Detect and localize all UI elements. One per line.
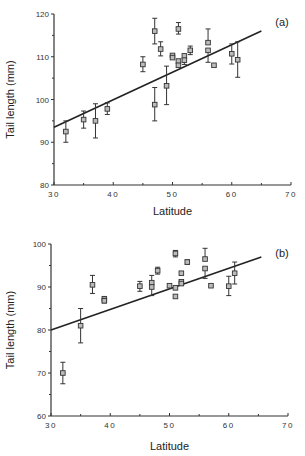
y-tick-label: 80 (37, 326, 46, 335)
chart-figure: 80901001101203040506070LatitudeTail leng… (0, 0, 305, 456)
data-point-marker (164, 84, 169, 89)
data-point-marker (232, 271, 237, 276)
data-point-marker (185, 260, 190, 265)
data-point-marker (206, 48, 211, 53)
data-point-marker (173, 286, 178, 291)
data-point-marker (138, 284, 143, 289)
data-point-marker (61, 371, 66, 376)
x-tick-label: 70 (285, 190, 297, 199)
y-tick-label: 110 (36, 53, 49, 62)
x-tick-label: 40 (104, 421, 116, 430)
data-point-marker (229, 51, 234, 56)
regression-line (51, 257, 261, 330)
data-point-marker (90, 283, 95, 288)
panel-label: (b) (275, 247, 288, 259)
y-tick-label: 100 (33, 240, 47, 249)
data-point-marker (152, 29, 157, 34)
data-point-marker (155, 268, 160, 273)
data-point-marker (203, 266, 208, 271)
data-point-marker (179, 271, 184, 276)
data-point-marker (235, 57, 240, 62)
data-point-marker (105, 107, 110, 112)
y-tick-label: 90 (40, 138, 49, 147)
regression-line (54, 31, 261, 127)
y-tick-label: 100 (36, 96, 50, 105)
panel-label: (a) (275, 16, 288, 28)
x-tick-label: 30 (48, 190, 60, 199)
data-point-marker (182, 58, 187, 63)
data-point-marker (176, 27, 181, 32)
x-tick-label: 30 (45, 421, 57, 430)
y-tick-label: 60 (37, 412, 46, 421)
data-point-marker (93, 119, 98, 124)
data-point-marker (203, 257, 208, 262)
data-point-marker (158, 47, 163, 52)
y-axis-label: Tail length (mm) (4, 60, 16, 138)
data-point-marker (176, 63, 181, 68)
y-axis-label: Tail length (mm) (4, 291, 16, 369)
y-tick-label: 90 (37, 283, 46, 292)
figure: 80901001101203040506070LatitudeTail leng… (0, 0, 305, 456)
y-tick-label: 80 (40, 181, 49, 190)
data-point-marker (149, 285, 154, 290)
y-tick-label: 70 (37, 369, 46, 378)
data-point-marker (102, 298, 107, 303)
x-tick-label: 60 (223, 421, 235, 430)
x-tick-label: 50 (167, 190, 179, 199)
data-point-marker (212, 63, 217, 68)
x-tick-label: 60 (226, 190, 238, 199)
data-point-marker (173, 251, 178, 256)
data-point-marker (209, 283, 214, 288)
data-point-marker (206, 40, 211, 45)
x-axis-label: Latitude (153, 205, 192, 217)
data-point-marker (141, 62, 146, 67)
data-point-marker (179, 281, 184, 286)
data-point-marker (226, 284, 231, 289)
x-tick-label: 70 (282, 421, 294, 430)
chart-panel-a: 80901001101203040506070LatitudeTail leng… (4, 10, 297, 217)
x-axis-label: Latitude (150, 440, 189, 452)
data-point-marker (188, 48, 193, 53)
x-tick-label: 40 (107, 190, 119, 199)
data-point-marker (64, 129, 69, 134)
data-point-marker (78, 323, 83, 328)
chart-panel-b: 607080901003040506070LatitudeTail length… (4, 240, 294, 452)
data-point-marker (170, 55, 175, 60)
y-tick-label: 120 (36, 10, 50, 19)
data-point-marker (81, 117, 86, 122)
data-point-marker (173, 294, 178, 299)
x-tick-label: 50 (164, 421, 176, 430)
data-point-marker (167, 283, 172, 288)
data-point-marker (152, 102, 157, 107)
